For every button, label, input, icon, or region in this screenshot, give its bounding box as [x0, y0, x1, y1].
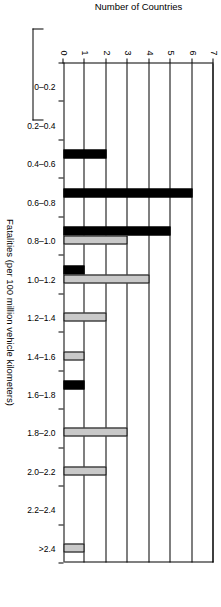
x-axis-tick	[58, 370, 63, 371]
y-axis-title: Number of Countries	[94, 1, 182, 12]
y-axis-tick-label: 6	[187, 50, 197, 55]
x-axis-tick	[58, 331, 63, 332]
bar-group	[63, 293, 213, 331]
x-axis-tick-label: 1.6–1.8	[15, 370, 57, 408]
bar-group	[63, 524, 213, 562]
x-axis-tick-label: 0.8–1.0	[15, 216, 57, 254]
bar-group	[63, 447, 213, 485]
x-axis-tick-label-text: 1.8–2.0	[27, 427, 55, 437]
bar-gray	[63, 351, 84, 360]
x-axis-tick	[58, 485, 63, 486]
x-axis-tick	[58, 254, 63, 255]
bar-group	[63, 331, 213, 369]
bar-group	[63, 408, 213, 446]
x-axis-tick	[58, 100, 63, 101]
x-axis-tick-label-text: 0.2–0.4	[27, 120, 55, 130]
x-axis-tick-label-text: 0.8–1.0	[27, 235, 55, 245]
x-axis-tick-label-text: 1.6–1.8	[27, 389, 55, 399]
x-axis-tick	[58, 562, 63, 563]
x-axis-tick-label: 1.2–1.4	[15, 293, 57, 331]
chart-canvas: Number of Countries 01234567 0–0.20.2–0.…	[0, 0, 221, 607]
bar-group	[63, 485, 213, 523]
y-axis-tick-label: 0	[58, 50, 68, 55]
bar-gray	[63, 312, 106, 321]
x-axis-tick	[58, 139, 63, 140]
bar-group	[63, 62, 213, 100]
x-axis-tick	[58, 408, 63, 409]
bar-gray	[63, 274, 149, 283]
bar-group	[63, 139, 213, 177]
x-axis-ticks	[58, 62, 63, 562]
x-axis-tick	[58, 62, 63, 63]
x-axis-tick-label: 1.0–1.2	[15, 254, 57, 292]
bar-black	[63, 149, 106, 158]
x-axis-tick	[58, 447, 63, 448]
bar-group	[63, 177, 213, 215]
y-axis-tick-label: 7	[208, 50, 218, 55]
x-axis-tick-label-text: 0.4–0.6	[27, 158, 55, 168]
x-axis-tick-label: 2.0–2.2	[15, 447, 57, 485]
bar-groups	[63, 62, 213, 562]
x-axis-tick-label-text: 2.2–2.4	[27, 504, 55, 514]
x-axis-tick-label: 2.2–2.4	[15, 485, 57, 523]
x-axis-tick-label: 1.8–2.0	[15, 408, 57, 446]
bar-black	[63, 265, 84, 274]
x-axis-tick	[58, 524, 63, 525]
x-axis-tick-label-text: 1.0–1.2	[27, 274, 55, 284]
y-axis-tick-label: 4	[144, 50, 154, 55]
y-axis-tick-label: 2	[101, 50, 111, 55]
x-axis-tick-label: 0.4–0.6	[15, 139, 57, 177]
y-axis-tick-label: 5	[165, 50, 175, 55]
bar-group	[63, 370, 213, 408]
bar-black	[63, 380, 84, 389]
x-axis-tick-label: >2.4	[15, 524, 57, 562]
bar-black	[63, 226, 170, 235]
x-axis-tick-label-text: 1.2–1.4	[27, 312, 55, 322]
bar-gray	[63, 427, 127, 436]
histogram-figure: Number of Countries 01234567 0–0.20.2–0.…	[0, 0, 221, 607]
rotated-figure-wrapper: Number of Countries 01234567 0–0.20.2–0.…	[0, 0, 221, 607]
bar-group	[63, 100, 213, 138]
y-axis-tick-label: 1	[79, 50, 89, 55]
legend-bracket	[32, 28, 43, 120]
x-axis-tick-label-text: 2.0–2.2	[27, 466, 55, 476]
x-axis-tick	[58, 293, 63, 294]
x-axis-tick-label: 1.4–1.6	[15, 331, 57, 369]
x-axis-tick-label-text: >2.4	[38, 543, 55, 553]
x-axis-title: Fatalities (per 100 million vehicle kilo…	[4, 219, 15, 406]
x-axis-tick-label-text: 0.6–0.8	[27, 197, 55, 207]
bar-group	[63, 254, 213, 292]
x-axis-tick-label: 0.6–0.8	[15, 177, 57, 215]
bar-black	[63, 188, 192, 197]
x-axis-tick	[58, 216, 63, 217]
y-axis-tick-label: 3	[122, 50, 132, 55]
bar-gray	[63, 235, 127, 244]
x-axis-tick-labels: 0–0.20.2–0.40.4–0.60.6–0.80.8–1.01.0–1.2…	[15, 62, 57, 562]
bar-group	[63, 216, 213, 254]
bar-gray	[63, 543, 84, 552]
x-axis-tick	[58, 177, 63, 178]
bar-gray	[63, 466, 106, 475]
x-axis-tick-label-text: 1.4–1.6	[27, 351, 55, 361]
